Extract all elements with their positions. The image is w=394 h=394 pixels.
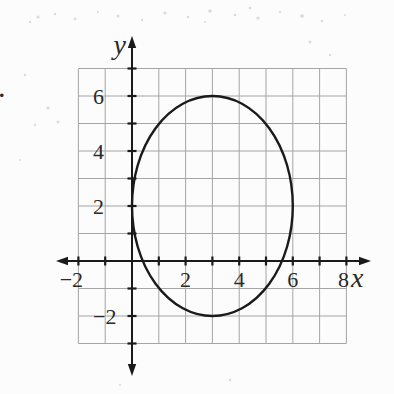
noise-dot: [256, 16, 259, 19]
noise-dot: [46, 106, 49, 109]
noise-dot: [74, 18, 77, 21]
y-tick-label: −2: [93, 304, 116, 329]
scan-noise: [19, 7, 346, 386]
noise-dot: [187, 16, 189, 18]
noise-dot: [34, 124, 36, 126]
x-axis-letter: x: [350, 262, 364, 293]
y-tick-label: 2: [93, 194, 104, 219]
noise-dot: [249, 7, 252, 10]
noise-dot: [309, 41, 312, 44]
x-tick-label: −2: [60, 267, 83, 292]
y-tick-label: 4: [93, 139, 104, 164]
x-tick-label: 2: [180, 267, 191, 292]
noise-dot: [57, 121, 60, 124]
x-tick-label: 4: [234, 267, 245, 292]
x-axis-left-arrow-icon: [56, 257, 68, 265]
noise-dot: [19, 159, 21, 161]
noise-dot: [329, 54, 331, 56]
figure-canvas: . −22468642−2yx: [0, 0, 394, 394]
noise-dot: [117, 15, 120, 18]
noise-dot: [300, 14, 304, 18]
noise-dot: [163, 11, 166, 14]
noise-dot: [141, 19, 143, 21]
noise-dot: [119, 384, 121, 386]
problem-number-period: .: [0, 70, 6, 104]
x-tick-label: 8: [338, 267, 349, 292]
x-tick-label: 6: [287, 267, 298, 292]
noise-dot: [208, 9, 212, 13]
noise-dot: [97, 11, 99, 13]
noise-dot: [229, 379, 232, 382]
noise-dot: [24, 74, 27, 77]
noise-dot: [54, 13, 56, 15]
ellipse-graph: −22468642−2yx: [0, 0, 394, 394]
noise-dot: [234, 14, 237, 17]
noise-dot: [36, 15, 39, 18]
noise-dot: [29, 21, 31, 23]
noise-dot: [344, 14, 346, 16]
noise-dot: [279, 11, 281, 13]
noise-dot: [204, 21, 206, 23]
y-axis-up-arrow-icon: [128, 36, 136, 48]
y-axis-letter: y: [111, 29, 127, 60]
grid: [78, 69, 346, 344]
noise-dot: [321, 20, 324, 23]
y-axis-down-arrow-icon: [128, 364, 136, 376]
y-tick-label: 6: [93, 84, 104, 109]
